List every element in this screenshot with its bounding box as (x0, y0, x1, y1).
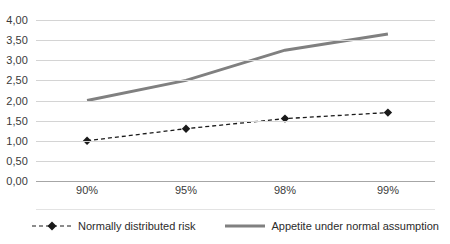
series-line (87, 113, 388, 141)
gridline-1-00 (36, 141, 435, 142)
gridline-3-00 (36, 60, 435, 61)
gridline-1-50 (36, 121, 435, 122)
legend-separator (36, 209, 435, 210)
legend-item-normally-distributed-risk: Normally distributed risk (32, 220, 195, 232)
dashed-diamond-swatch (32, 220, 72, 232)
y-axis-tick-label: 1,00 (6, 135, 28, 147)
plot-area: 0,000,501,001,502,002,503,003,504,00 (36, 20, 435, 181)
chart-legend: Normally distributed risk Appetite under… (36, 215, 435, 237)
x-axis-tick-label: 95% (175, 184, 197, 196)
chart-container: 0,000,501,001,502,002,503,003,504,00 90%… (0, 0, 450, 244)
y-axis-tick-label: 3,50 (6, 34, 28, 46)
solid-line-swatch (225, 220, 265, 232)
series-2 (87, 34, 388, 100)
series-1 (83, 108, 392, 145)
series-line (87, 34, 388, 100)
gridline-0-00 (36, 181, 435, 182)
y-axis-tick-label: 0,00 (6, 175, 28, 187)
y-axis-tick-label: 4,00 (6, 14, 28, 26)
x-axis-tick-label: 99% (377, 184, 399, 196)
y-axis-tick-label: 2,00 (6, 95, 28, 107)
gridline-3-50 (36, 40, 435, 41)
x-axis-tick-label: 90% (76, 184, 98, 196)
gridline-0-50 (36, 161, 435, 162)
x-axis-tick-label: 98% (274, 184, 296, 196)
gridline-2-00 (36, 101, 435, 102)
legend-label: Appetite under normal assumption (271, 220, 439, 232)
legend-item-appetite-under-normal-assumption: Appetite under normal assumption (225, 220, 439, 232)
gridline-2-50 (36, 80, 435, 81)
y-axis-tick-label: 1,50 (6, 115, 28, 127)
y-axis-tick-label: 0,50 (6, 155, 28, 167)
y-axis-tick-label: 2,50 (6, 74, 28, 86)
legend-label: Normally distributed risk (78, 220, 195, 232)
gridline-4-00 (36, 20, 435, 21)
y-axis-tick-label: 3,00 (6, 54, 28, 66)
x-axis: 90%95%98%99% (36, 184, 435, 204)
data-point-marker (384, 108, 392, 116)
data-point-marker (182, 124, 190, 132)
